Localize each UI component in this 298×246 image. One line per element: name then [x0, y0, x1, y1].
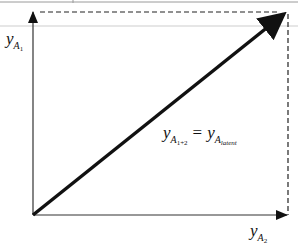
x-axis-label: yA2	[250, 222, 267, 245]
diagram-canvas: yA1 yA2 yA1+2=yAlatent	[0, 0, 298, 246]
y-axis-label: yA1	[6, 30, 23, 53]
vector-diagram	[0, 0, 298, 246]
equation-label: yA1+2=yAlatent	[163, 124, 237, 147]
resultant-vector	[33, 14, 284, 215]
